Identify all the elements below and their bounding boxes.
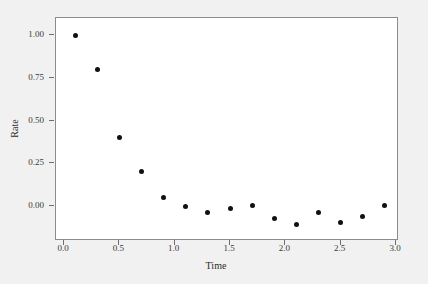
x-axis-tick-label: 0.5 <box>113 244 124 253</box>
x-axis-tick-mark <box>118 240 119 245</box>
data-point <box>382 203 387 208</box>
x-axis-tick-mark <box>395 240 396 245</box>
x-axis-tick-mark <box>174 240 175 245</box>
data-point <box>95 67 100 72</box>
data-point <box>294 222 299 227</box>
y-axis-tick-mark <box>49 77 54 78</box>
plot-area <box>55 17 398 240</box>
y-axis-tick-mark <box>49 120 54 121</box>
x-axis-tick-label: 3.0 <box>389 244 400 253</box>
data-point <box>272 216 277 221</box>
x-axis-tick-label: 0.0 <box>57 244 68 253</box>
data-point <box>73 33 78 38</box>
y-axis-tick-mark <box>49 205 54 206</box>
x-axis-tick-label: 2.0 <box>279 244 290 253</box>
scatter-plot-figure: 0.000.250.500.751.00 Rate Time 0.00.51.0… <box>0 0 428 284</box>
y-axis-tick-mark <box>49 34 54 35</box>
x-axis-tick-label: 1.5 <box>223 244 234 253</box>
x-axis-tick-mark <box>284 240 285 245</box>
x-axis-tick-label: 2.5 <box>334 244 345 253</box>
data-point <box>316 210 321 215</box>
data-point <box>183 204 188 209</box>
y-axis-tick-mark <box>49 162 54 163</box>
data-point <box>139 169 144 174</box>
y-axis-tick-label: 0.75 <box>28 72 44 81</box>
x-axis-tick-label: 1.0 <box>168 244 179 253</box>
x-axis-tick-mark <box>229 240 230 245</box>
data-point <box>228 206 233 211</box>
y-axis-tick-label: 0.25 <box>28 158 44 167</box>
data-point <box>360 214 365 219</box>
data-point <box>117 135 122 140</box>
x-axis-tick-mark <box>340 240 341 245</box>
y-axis-tick-label: 0.00 <box>28 201 44 210</box>
y-axis-tick-label: 1.00 <box>28 30 44 39</box>
y-axis-label-text: Rate <box>9 119 20 137</box>
data-point <box>161 195 166 200</box>
data-point <box>338 220 343 225</box>
y-axis-label: Rate <box>6 0 22 257</box>
y-axis-tick-label: 0.50 <box>28 115 44 124</box>
x-axis-label-text: Time <box>206 260 227 271</box>
x-axis-tick-mark <box>63 240 64 245</box>
data-point <box>205 210 210 215</box>
x-axis-label: Time <box>0 260 428 271</box>
data-point <box>250 203 255 208</box>
